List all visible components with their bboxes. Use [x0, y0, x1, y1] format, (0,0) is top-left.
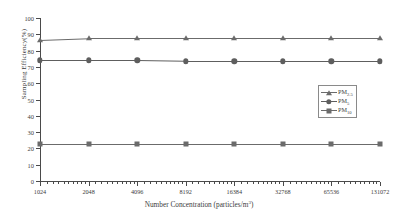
legend-marker-square-icon: [321, 106, 337, 115]
x-tick-minor: [275, 182, 276, 184]
series-segment: [283, 144, 332, 145]
legend-label: PM10: [337, 106, 352, 115]
y-tick-label: 30: [28, 129, 34, 136]
y-tick-label: 100: [24, 15, 34, 22]
series-segment: [186, 144, 235, 145]
x-tick-minor: [223, 182, 224, 184]
y-tick-label: 60: [28, 80, 34, 87]
x-tick-label: 2048: [82, 188, 94, 195]
series-segment: [234, 38, 283, 39]
x-tick-minor: [170, 182, 171, 184]
x-tick-minor: [64, 182, 65, 184]
x-tick-mark: [331, 182, 332, 186]
x-tick-minor: [241, 182, 242, 184]
x-tick-minor: [253, 182, 254, 184]
x-tick-minor: [247, 182, 248, 184]
data-point: [37, 58, 42, 63]
x-tick-minor: [231, 182, 232, 184]
data-point: [231, 36, 237, 41]
x-tick-mark: [40, 182, 41, 186]
x-tick-mark: [380, 182, 381, 186]
x-tick-label: 65536: [324, 188, 339, 195]
legend: PM2.5PM5PM10: [318, 85, 357, 118]
x-tick-minor: [290, 182, 291, 184]
legend-marker-glyph: [326, 90, 332, 95]
y-tick-label: 0: [31, 178, 34, 185]
legend-item-PM5[interactable]: PM5: [321, 97, 353, 106]
data-point: [86, 142, 91, 147]
x-tick-minor: [376, 182, 377, 184]
y-tick-label: 50: [28, 96, 34, 103]
data-point: [183, 58, 188, 63]
x-tick-minor: [316, 182, 317, 184]
legend-marker-glyph: [327, 108, 332, 113]
x-tick-minor: [174, 182, 175, 184]
y-tick-label: 10: [28, 161, 34, 168]
x-axis-title-text: Number Concentration (particles/m: [145, 200, 249, 209]
x-tick-minor: [258, 182, 259, 184]
x-tick-minor: [360, 182, 361, 184]
x-tick-minor: [209, 182, 210, 184]
data-point: [183, 36, 189, 41]
x-tick-minor: [53, 182, 54, 184]
y-tick-label: 40: [28, 112, 34, 119]
data-point: [329, 142, 334, 147]
series-segment: [89, 38, 138, 39]
data-point: [232, 58, 237, 63]
legend-label: PM2.5: [337, 88, 353, 97]
legend-label: PM5: [337, 97, 349, 106]
y-tick-mark: [36, 67, 40, 68]
x-tick-label: 4096: [131, 188, 143, 195]
data-point: [377, 36, 383, 41]
x-tick-minor: [178, 182, 179, 184]
data-point: [37, 37, 43, 42]
series-segment: [89, 60, 138, 61]
y-tick-mark: [36, 116, 40, 117]
x-tick-minor: [204, 182, 205, 184]
data-point: [329, 58, 334, 63]
legend-label-base: PM: [338, 97, 347, 104]
y-tick-label: 90: [28, 31, 34, 38]
y-tick-mark: [36, 34, 40, 35]
series-segment: [234, 144, 283, 145]
data-point: [134, 58, 139, 63]
data-point: [183, 142, 188, 147]
x-axis-title-tail: ): [251, 200, 253, 209]
data-point: [38, 142, 43, 147]
x-tick-minor: [344, 182, 345, 184]
x-tick-minor: [219, 182, 220, 184]
x-tick-minor: [350, 182, 351, 184]
x-tick-minor: [130, 182, 131, 184]
x-tick-minor: [166, 182, 167, 184]
y-tick-mark: [36, 165, 40, 166]
data-point: [377, 58, 382, 63]
x-tick-mark: [89, 182, 90, 186]
x-tick-minor: [117, 182, 118, 184]
series-segment: [186, 38, 235, 39]
y-tick-label: 70: [28, 63, 34, 70]
x-tick-minor: [320, 182, 321, 184]
series-segment: [186, 61, 235, 62]
legend-item-PM10[interactable]: PM10: [321, 106, 353, 115]
x-tick-minor: [68, 182, 69, 184]
series-segment: [283, 38, 332, 39]
x-tick-minor: [301, 182, 302, 184]
data-point: [280, 58, 285, 63]
x-tick-minor: [355, 182, 356, 184]
series-segment: [283, 61, 332, 62]
x-tick-minor: [85, 182, 86, 184]
x-tick-minor: [263, 182, 264, 184]
x-tick-minor: [134, 182, 135, 184]
legend-item-PM2.5[interactable]: PM2.5: [321, 88, 353, 97]
x-tick-minor: [296, 182, 297, 184]
x-tick-minor: [101, 182, 102, 184]
x-tick-label: 16384: [227, 188, 242, 195]
x-tick-minor: [73, 182, 74, 184]
legend-marker-circle-icon: [321, 97, 337, 106]
series-segment: [331, 61, 380, 62]
data-point: [378, 142, 383, 147]
x-tick-minor: [112, 182, 113, 184]
x-tick-label: 131072: [371, 188, 390, 195]
x-tick-minor: [328, 182, 329, 184]
series-segment: [137, 38, 186, 39]
